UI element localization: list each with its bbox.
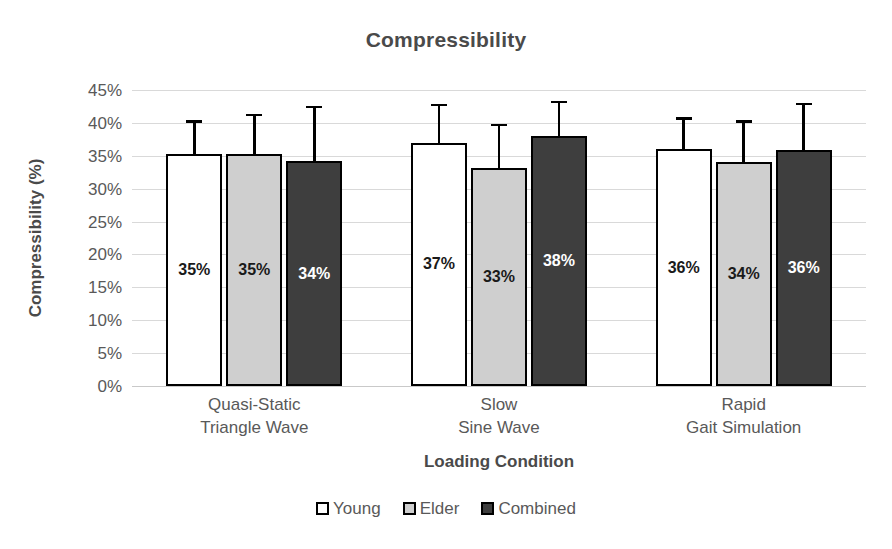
x-axis-label-line: Gait Simulation (621, 417, 866, 440)
bar-value-label: 34% (286, 266, 342, 282)
y-axis-tick-label: 15% (52, 279, 122, 296)
x-axis-label-line: Rapid (621, 394, 866, 417)
x-axis-category-label: RapidGait Simulation (621, 394, 866, 440)
x-axis-label-line: Triangle Wave (132, 417, 377, 440)
y-axis-tick-label: 35% (52, 148, 122, 165)
error-bar-cap (246, 114, 262, 117)
y-axis-tick-label: 0% (52, 378, 122, 395)
chart-legend: YoungElderCombined (0, 500, 892, 517)
legend-item-young[interactable]: Young (316, 500, 381, 517)
legend-item-combined[interactable]: Combined (481, 500, 576, 517)
error-bar-cap (676, 117, 692, 120)
error-bar-cap (491, 124, 507, 127)
bar-young-group2[interactable]: 37% (411, 90, 467, 386)
bar-elder-group2[interactable]: 33% (471, 90, 527, 386)
legend-label: Combined (498, 500, 576, 517)
gridline (132, 386, 866, 387)
bar-young-group3[interactable]: 36% (656, 90, 712, 386)
legend-label: Young (333, 500, 381, 517)
legend-swatch-icon (316, 502, 329, 515)
bar-combined-group1[interactable]: 34% (286, 90, 342, 386)
bar-value-label: 36% (776, 260, 832, 276)
bar-value-label: 35% (166, 262, 222, 278)
x-axis-category-labels: Quasi-StaticTriangle WaveSlowSine WaveRa… (132, 394, 866, 454)
bar-elder-group3[interactable]: 34% (716, 90, 772, 386)
bar-value-label: 35% (226, 262, 282, 278)
bar-group: 35%35%34% (132, 90, 377, 386)
x-axis-label-line: Quasi-Static (132, 394, 377, 417)
x-axis-title: Loading Condition (132, 452, 866, 472)
y-axis-title: Compressibility (%) (26, 108, 46, 368)
bar-group: 37%33%38% (377, 90, 622, 386)
x-axis-category-label: SlowSine Wave (377, 394, 622, 440)
error-bar-cap (186, 120, 202, 123)
error-bar-cap (736, 120, 752, 123)
error-bar-cap (551, 101, 567, 104)
bar-value-label: 38% (531, 253, 587, 269)
y-axis-tick-label: 30% (52, 181, 122, 198)
bar-value-label: 33% (471, 269, 527, 285)
compressibility-bar-chart: Compressibility Compressibility (%) 45%4… (0, 0, 892, 549)
bar-value-label: 36% (656, 260, 712, 276)
legend-swatch-icon (403, 502, 416, 515)
y-axis-tick-label: 25% (52, 214, 122, 231)
error-bar-cap (431, 104, 447, 107)
y-axis-tick-label: 5% (52, 345, 122, 362)
y-axis-tick-label: 45% (52, 82, 122, 99)
legend-swatch-icon (481, 502, 494, 515)
x-axis-label-line: Slow (377, 394, 622, 417)
bar-combined-group2[interactable]: 38% (531, 90, 587, 386)
y-axis-tick-label: 20% (52, 246, 122, 263)
bar-elder-group1[interactable]: 35% (226, 90, 282, 386)
chart-title: Compressibility (0, 28, 892, 52)
x-axis-label-line: Sine Wave (377, 417, 622, 440)
x-axis-category-label: Quasi-StaticTriangle Wave (132, 394, 377, 440)
y-axis-tick-label: 10% (52, 312, 122, 329)
legend-label: Elder (420, 500, 460, 517)
plot-area: 35%35%34%37%33%38%36%34%36% (132, 90, 866, 386)
bar-value-label: 37% (411, 256, 467, 272)
y-axis-tick-label: 40% (52, 115, 122, 132)
legend-item-elder[interactable]: Elder (403, 500, 460, 517)
bar-combined-group3[interactable]: 36% (776, 90, 832, 386)
y-axis-tick-labels: 45%40%35%30%25%20%15%10%5%0% (46, 90, 122, 386)
error-bar-cap (796, 103, 812, 106)
error-bar-cap (306, 106, 322, 109)
bar-value-label: 34% (716, 266, 772, 282)
bar-young-group1[interactable]: 35% (166, 90, 222, 386)
bar-group: 36%34%36% (621, 90, 866, 386)
